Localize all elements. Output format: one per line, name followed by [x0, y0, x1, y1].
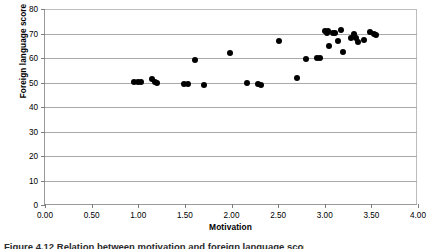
data-point — [201, 82, 207, 88]
plot-area: 01020304050607080 0.000.501.001.502.002.… — [44, 9, 417, 205]
x-tick-label: 2.00 — [224, 211, 240, 220]
y-tick-label: 30 — [29, 127, 38, 136]
x-axis-title: Motivation — [44, 222, 417, 232]
x-tick-label: 3.00 — [317, 211, 333, 220]
data-point — [276, 38, 282, 44]
x-tick — [371, 204, 372, 208]
x-tick — [138, 204, 139, 208]
data-point — [340, 49, 346, 55]
x-tick — [418, 204, 419, 208]
x-tick — [232, 204, 233, 208]
y-tick-label: 60 — [29, 54, 38, 63]
y-tick-label: 80 — [29, 5, 38, 14]
gridline — [45, 181, 417, 182]
figure-caption: Figure 4.12 Relation between motivation … — [4, 241, 304, 249]
y-tick-label: 40 — [29, 103, 38, 112]
data-point — [338, 27, 344, 33]
data-point — [317, 55, 323, 61]
y-tick — [41, 34, 45, 35]
data-point — [326, 43, 332, 49]
y-tick-label: 0 — [33, 201, 38, 210]
gridline — [45, 34, 417, 35]
gridline — [45, 107, 417, 108]
y-tick-label: 10 — [29, 176, 38, 185]
data-point — [227, 50, 233, 56]
data-point — [185, 81, 191, 87]
x-tick-label: 0.50 — [84, 211, 100, 220]
gridline — [45, 156, 417, 157]
x-tick — [92, 204, 93, 208]
data-point — [244, 80, 250, 86]
y-tick — [41, 156, 45, 157]
y-tick — [41, 58, 45, 59]
y-tick — [41, 107, 45, 108]
x-tick — [325, 204, 326, 208]
gridline — [45, 58, 417, 59]
y-tick — [41, 181, 45, 182]
x-tick — [185, 204, 186, 208]
data-point — [335, 38, 341, 44]
data-point — [294, 75, 300, 81]
y-tick-label: 50 — [29, 78, 38, 87]
x-tick — [45, 204, 46, 208]
x-tick-label: 1.00 — [130, 211, 146, 220]
scatter-figure: Foreign language score 01020304050607080… — [0, 0, 436, 249]
data-point — [138, 79, 144, 85]
data-point — [192, 57, 198, 63]
y-tick — [41, 132, 45, 133]
data-point — [361, 37, 367, 43]
y-tick-label: 20 — [29, 152, 38, 161]
data-point — [258, 82, 264, 88]
gridline — [45, 83, 417, 84]
y-tick — [41, 9, 45, 10]
data-point — [303, 56, 309, 62]
x-tick-label: 0.00 — [37, 211, 53, 220]
y-tick-label: 70 — [29, 29, 38, 38]
data-point — [154, 80, 160, 86]
x-tick-label: 2.50 — [270, 211, 286, 220]
x-tick-label: 4.00 — [410, 211, 426, 220]
x-tick-label: 3.50 — [363, 211, 379, 220]
gridline — [45, 132, 417, 133]
plot-frame-top — [45, 9, 417, 10]
x-tick — [278, 204, 279, 208]
y-tick — [41, 83, 45, 84]
x-tick-label: 1.50 — [177, 211, 193, 220]
data-point — [373, 32, 379, 38]
